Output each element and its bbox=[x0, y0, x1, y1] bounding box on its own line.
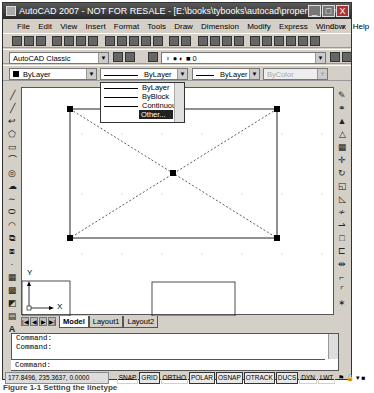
linetype-combo[interactable]: ByLayer ▼ bbox=[100, 68, 188, 80]
design-center-icon[interactable] bbox=[262, 36, 272, 46]
block-editor-icon[interactable] bbox=[153, 36, 163, 46]
next-tab-button[interactable]: ▶ bbox=[39, 317, 47, 326]
explode-icon[interactable]: ✶ bbox=[337, 298, 347, 308]
menu-modify[interactable]: Modify bbox=[247, 22, 271, 31]
layer-combo[interactable]: ♀ ● ◐ ■ 0 ▼ bbox=[161, 52, 326, 64]
linetype-option-other[interactable]: Other... bbox=[139, 110, 173, 119]
menu-tools[interactable]: Tools bbox=[147, 22, 166, 31]
zoom-previous-icon[interactable] bbox=[234, 36, 244, 46]
pan-icon[interactable] bbox=[198, 36, 208, 46]
match-properties-icon[interactable] bbox=[141, 36, 151, 46]
offset-icon[interactable]: △ bbox=[337, 129, 347, 139]
new-icon[interactable] bbox=[12, 36, 22, 46]
menu-help[interactable]: Help bbox=[353, 22, 369, 31]
last-tab-button[interactable]: ▶| bbox=[48, 317, 56, 326]
tab-model[interactable]: Model bbox=[59, 316, 89, 328]
dyn-toggle[interactable]: DYN bbox=[299, 372, 317, 384]
save-icon[interactable] bbox=[36, 36, 46, 46]
tab-layout1[interactable]: Layout1 bbox=[89, 316, 124, 328]
color-combo[interactable]: ByLayer ▼ bbox=[9, 68, 97, 80]
polyline-icon[interactable]: ↩ bbox=[7, 116, 17, 126]
ellipse-icon[interactable]: ⬭ bbox=[7, 207, 17, 217]
point-icon[interactable]: · bbox=[7, 259, 17, 269]
snap-toggle[interactable]: SNAP bbox=[117, 372, 139, 384]
command-line-input[interactable]: Command: bbox=[11, 359, 325, 370]
rotate-icon[interactable]: ↻ bbox=[337, 168, 347, 178]
doc-restore-button[interactable]: □ bbox=[331, 20, 336, 33]
ellipse-arc-icon[interactable]: ◠ bbox=[7, 220, 17, 230]
clean-screen-icon[interactable]: ■ bbox=[362, 374, 366, 381]
paste-icon[interactable] bbox=[129, 36, 139, 46]
polygon-icon[interactable]: ⬠ bbox=[7, 129, 17, 139]
plot-preview-icon[interactable] bbox=[64, 36, 74, 46]
doc-close-button[interactable]: x bbox=[342, 20, 346, 33]
menu-insert[interactable]: Insert bbox=[86, 22, 106, 31]
break-at-point-icon[interactable]: □ bbox=[337, 233, 347, 243]
zoom-realtime-icon[interactable] bbox=[210, 36, 220, 46]
scale-icon[interactable]: ◱ bbox=[337, 181, 347, 191]
command-scrollbar[interactable] bbox=[328, 334, 338, 359]
doc-minimize-button[interactable]: _ bbox=[321, 20, 325, 33]
layer-previous-icon[interactable] bbox=[342, 52, 352, 62]
chevron-down-icon[interactable]: ▼ bbox=[177, 69, 187, 79]
publish-icon[interactable] bbox=[76, 36, 86, 46]
close-button[interactable]: X bbox=[336, 5, 349, 17]
line-icon[interactable]: ╱ bbox=[7, 90, 17, 100]
menu-edit[interactable]: Edit bbox=[38, 22, 52, 31]
linetype-option-bylayer[interactable]: ByLayer bbox=[101, 83, 184, 92]
zoom-window-icon[interactable] bbox=[222, 36, 232, 46]
menu-view[interactable]: View bbox=[60, 22, 77, 31]
polar-toggle[interactable]: POLAR bbox=[189, 372, 215, 384]
join-icon[interactable]: ⇹ bbox=[337, 259, 347, 269]
grid-toggle[interactable]: GRID bbox=[139, 372, 159, 384]
mirror-icon[interactable]: ▲ bbox=[337, 116, 347, 126]
gradient-icon[interactable]: ▩ bbox=[7, 285, 17, 295]
dropdown-scrollbar[interactable] bbox=[174, 83, 184, 122]
spline-icon[interactable]: ∼ bbox=[7, 194, 17, 204]
construction-line-icon[interactable]: ╱ bbox=[7, 103, 17, 113]
ortho-toggle[interactable]: ORTHO bbox=[161, 372, 188, 384]
make-block-icon[interactable]: ⧈ bbox=[7, 246, 17, 256]
chevron-down-icon[interactable]: ▼ bbox=[86, 69, 96, 79]
properties-icon[interactable] bbox=[250, 36, 260, 46]
osnap-toggle[interactable]: OSNAP bbox=[216, 372, 243, 384]
cut-icon[interactable] bbox=[105, 36, 115, 46]
open-icon[interactable] bbox=[24, 36, 34, 46]
otrack-toggle[interactable]: OTRACK bbox=[244, 372, 275, 384]
plot-icon[interactable] bbox=[52, 36, 62, 46]
menu-draw[interactable]: Draw bbox=[174, 22, 193, 31]
fillet-icon[interactable]: ⌜ bbox=[337, 285, 347, 295]
array-icon[interactable]: ▦ bbox=[337, 142, 347, 152]
move-icon[interactable]: ✛ bbox=[337, 155, 347, 165]
3d-dwf-icon[interactable] bbox=[88, 36, 98, 46]
hatch-icon[interactable]: ▦ bbox=[7, 272, 17, 282]
calculator-icon[interactable] bbox=[310, 36, 320, 46]
lock-icon[interactable]: 🔓 bbox=[346, 374, 354, 381]
break-icon[interactable]: ⊏ bbox=[337, 246, 347, 256]
region-icon[interactable]: ◩ bbox=[7, 298, 17, 308]
stretch-icon[interactable]: ◺ bbox=[337, 194, 347, 204]
copy-object-icon[interactable]: ⚭ bbox=[337, 103, 347, 113]
first-tab-button[interactable]: |◀ bbox=[21, 317, 29, 326]
prev-tab-button[interactable]: ◀ bbox=[30, 317, 38, 326]
menu-format[interactable]: Format bbox=[114, 22, 139, 31]
menu-dimension[interactable]: Dimension bbox=[201, 22, 239, 31]
autocad-app-icon[interactable] bbox=[6, 6, 16, 16]
tab-layout2[interactable]: Layout2 bbox=[123, 316, 158, 328]
chevron-down-icon[interactable]: ▼ bbox=[98, 53, 108, 63]
erase-icon[interactable]: ✎ bbox=[337, 90, 347, 100]
chevron-down-icon[interactable]: ▼ bbox=[249, 69, 259, 79]
rectangle-icon[interactable]: ▭ bbox=[7, 142, 17, 152]
copy-icon[interactable] bbox=[117, 36, 127, 46]
lineweight-combo[interactable]: ByLayer ▼ bbox=[192, 68, 260, 80]
chamfer-icon[interactable]: ⌐ bbox=[337, 272, 347, 282]
workspace-combo[interactable]: AutoCAD Classic ▼ bbox=[9, 52, 109, 64]
insert-block-icon[interactable]: ⧉ bbox=[7, 233, 17, 243]
tool-palettes-icon[interactable] bbox=[274, 36, 284, 46]
statusbar-menu-icon[interactable]: ▾ bbox=[356, 374, 360, 381]
sheet-set-icon[interactable] bbox=[286, 36, 296, 46]
workspace-save-icon[interactable] bbox=[125, 52, 135, 62]
layer-manager-icon[interactable] bbox=[148, 52, 158, 62]
extend-icon[interactable]: ⇀ bbox=[337, 220, 347, 230]
communication-center-icon[interactable]: ⚑ bbox=[338, 374, 344, 381]
